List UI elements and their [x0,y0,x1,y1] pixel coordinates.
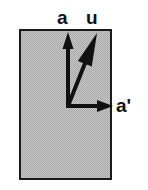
vector-label-a-prime: a' [116,96,131,115]
vector-label-a: a [57,8,68,27]
origin-joint [66,104,70,108]
vector-label-u: u [86,8,98,27]
vector-decomposition-figure: a u a' [0,0,148,190]
